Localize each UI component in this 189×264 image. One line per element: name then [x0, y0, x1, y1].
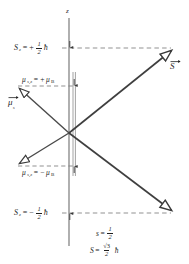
s-value-equals: =: [100, 230, 105, 238]
S-value-equals: =: [95, 247, 100, 255]
vector-S-down: [69, 133, 172, 211]
sz-neg-sign: −: [29, 209, 35, 217]
s-value-symbol: s: [96, 230, 99, 238]
label-mu-negative: μs,z = − μB: [22, 169, 54, 177]
sz-pos-fraction: 1 2: [36, 41, 41, 56]
mu-pos-symbol: μ: [22, 76, 26, 84]
sz-pos-unit: ħ: [44, 44, 48, 52]
S-value-numerator: √3: [102, 243, 111, 250]
equation-spin-magnitude: S = √3 2 ħ: [90, 243, 119, 258]
vector-S-up: [69, 51, 172, 134]
sz-neg-denominator: 2: [36, 213, 41, 221]
sz-neg-fraction: 1 2: [36, 206, 41, 221]
sz-neg-equals: =: [22, 209, 28, 217]
label-vector-mu: μs: [8, 98, 15, 109]
sz-neg-numerator: 1: [36, 206, 41, 213]
sz-pos-denominator: 2: [36, 48, 41, 56]
sz-neg-unit: ħ: [44, 209, 48, 217]
label-mu-positive: μs,z = + μB: [22, 76, 54, 84]
s-value-numerator: 1: [107, 226, 112, 233]
S-value-fraction: √3 2: [102, 243, 111, 258]
mu-neg-value-symbol: μ: [46, 169, 50, 177]
vector-s-overarrow-wrap: S: [170, 62, 175, 71]
diagram-canvas: [0, 0, 189, 264]
vector-mu-overarrow-wrap: μ: [8, 98, 13, 107]
sz-pos-sign: +: [29, 44, 35, 52]
label-sz-positive: Sz = + 1 2 ħ: [14, 41, 48, 56]
axis-label-z: z: [66, 8, 69, 15]
s-value-denominator: 2: [107, 233, 112, 241]
mu-neg-sign: −: [40, 169, 45, 177]
mu-pos-value-symbol: μ: [46, 76, 50, 84]
vector-s-symbol: S: [170, 61, 175, 71]
s-value-fraction: 1 2: [107, 226, 112, 241]
vector-mu-down: [20, 133, 70, 164]
mu-pos-value-subscript: B: [51, 79, 54, 84]
label-sz-negative: Sz = − 1 2 ħ: [14, 206, 48, 221]
S-value-symbol: S: [90, 247, 94, 255]
mu-neg-value-subscript: B: [51, 172, 54, 177]
sz-neg-symbol: S: [14, 209, 18, 217]
sz-pos-subscript: z: [19, 47, 21, 52]
mu-pos-subscript: s,z: [27, 79, 32, 84]
mu-neg-subscript: s,z: [27, 172, 32, 177]
label-vector-S: S: [170, 62, 175, 71]
vector-mu-subscript: s: [13, 105, 15, 110]
S-value-unit: ħ: [115, 247, 119, 255]
sz-pos-symbol: S: [14, 44, 18, 52]
mu-pos-equals: =: [33, 76, 38, 84]
mu-axis-lines: [73, 72, 75, 176]
sz-pos-numerator: 1: [36, 41, 41, 48]
mu-neg-symbol: μ: [22, 169, 26, 177]
mu-pos-sign: +: [40, 76, 45, 84]
mu-neg-equals: =: [33, 169, 38, 177]
sz-neg-subscript: z: [19, 212, 21, 217]
sz-pos-equals: =: [22, 44, 28, 52]
equation-spin-quantum-number: s = 1 2: [96, 226, 114, 241]
vector-mu-up: [20, 89, 70, 134]
spin-vector-diagram: z Sz = + 1 2 ħ μs,z = + μB μs,z = − μB: [0, 0, 189, 264]
vector-mu-symbol: μ: [8, 97, 13, 107]
S-value-denominator: 2: [104, 250, 109, 258]
